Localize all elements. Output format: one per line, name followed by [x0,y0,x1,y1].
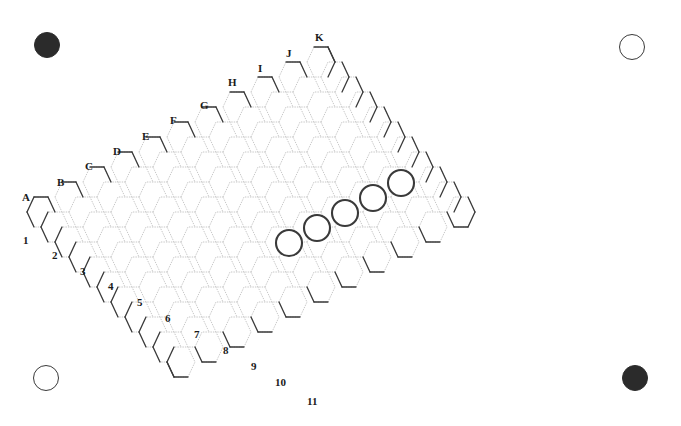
row-label-8: 8 [223,345,229,356]
hex-board-figure: ABCDEFGHIJK 1234567891011 [0,0,681,426]
corner-marker-top-right-light [619,34,645,60]
stone-light[interactable] [332,200,358,226]
column-label-a: A [22,192,30,203]
stone-light[interactable] [360,185,386,211]
row-label-10: 10 [275,377,286,388]
column-label-e: E [142,131,149,142]
stone-light[interactable] [388,170,414,196]
column-label-k: K [315,32,324,43]
column-label-d: D [113,146,121,157]
column-label-f: F [170,115,177,126]
row-label-11: 11 [307,396,317,407]
hex-grid[interactable] [0,0,681,426]
corner-marker-bottom-left-light [33,365,59,391]
corner-marker-top-left-dark [34,32,60,58]
column-label-h: H [228,77,237,88]
row-label-5: 5 [137,297,143,308]
row-label-9: 9 [251,361,257,372]
column-label-j: J [286,48,292,59]
stone-light[interactable] [304,215,330,241]
column-label-i: I [258,63,262,74]
row-label-2: 2 [52,250,58,261]
row-label-4: 4 [108,281,114,292]
row-label-6: 6 [165,313,171,324]
row-label-7: 7 [194,329,200,340]
row-label-3: 3 [80,266,86,277]
hex-grid-interior-cells[interactable] [27,47,475,377]
column-label-g: G [200,100,209,111]
corner-marker-bottom-right-dark [622,365,648,391]
row-label-1: 1 [23,235,29,246]
stone-light[interactable] [276,230,302,256]
column-label-c: C [85,161,93,172]
column-label-b: B [57,177,64,188]
